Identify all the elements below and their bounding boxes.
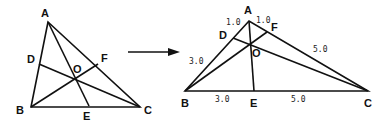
arrow-head-icon xyxy=(168,48,180,56)
right-label-O: O xyxy=(252,47,261,59)
transform-arrow xyxy=(128,48,180,56)
left-label-C: C xyxy=(144,104,152,116)
right-label-D: D xyxy=(219,29,227,41)
right-triangle: A B C D E F O 1.0 1.0 3.0 5.0 3.0 5.0 xyxy=(181,4,372,109)
right-label-F: F xyxy=(271,21,278,33)
right-label-E: E xyxy=(250,97,257,109)
left-cevian-AE xyxy=(48,22,89,106)
left-triangle-outline xyxy=(31,22,140,107)
cevian-triangles-diagram: A B C D E F O A B C D E F O 1.0 1.0 3.0 … xyxy=(0,0,389,126)
left-cevian-CD xyxy=(39,64,140,107)
length-EC: 5.0 xyxy=(291,95,306,104)
right-label-B: B xyxy=(181,97,189,109)
length-FC: 5.0 xyxy=(313,45,328,54)
left-label-F: F xyxy=(101,52,108,64)
right-label-C: C xyxy=(364,97,372,109)
length-AD: 1.0 xyxy=(226,18,241,27)
left-triangle: A B C D E F O xyxy=(16,7,152,122)
left-label-O: O xyxy=(73,63,82,75)
left-label-B: B xyxy=(16,104,24,116)
right-label-A: A xyxy=(244,4,252,16)
left-label-E: E xyxy=(83,110,90,122)
length-DB: 3.0 xyxy=(189,57,204,66)
length-AF: 1.0 xyxy=(256,16,271,25)
left-label-A: A xyxy=(41,7,49,19)
length-BE: 3.0 xyxy=(215,95,230,104)
left-label-D: D xyxy=(27,53,35,65)
